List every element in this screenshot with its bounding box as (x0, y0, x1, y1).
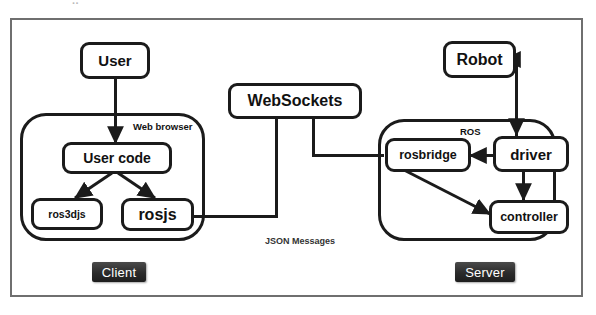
node-robot-label: Robot (456, 51, 502, 69)
diagram-canvas: .. (0, 0, 596, 315)
node-controller-label: controller (500, 210, 558, 224)
node-ros3djs-label: ros3djs (48, 208, 85, 220)
connector-rosjs-up-to-websockets (275, 118, 278, 218)
node-rosbridge[interactable]: rosbridge (385, 138, 471, 172)
connector-websockets-down (312, 118, 315, 157)
node-websockets[interactable]: WebSockets (228, 83, 362, 119)
pill-server: Server (455, 262, 515, 282)
node-websockets-label: WebSockets (248, 92, 343, 110)
group-web-browser-label: Web browser (133, 121, 192, 132)
node-ros3djs[interactable]: ros3djs (31, 198, 103, 230)
connector-websockets-to-rosbridge (312, 154, 384, 157)
node-driver[interactable]: driver (493, 136, 569, 172)
connector-user-to-usercode (114, 78, 117, 142)
pill-client-label: Client (102, 265, 136, 280)
node-user[interactable]: User (80, 42, 150, 79)
node-rosjs-label: rosjs (138, 206, 176, 224)
node-robot[interactable]: Robot (443, 41, 516, 78)
top-cutoff-text: .. (72, 0, 79, 6)
pill-client: Client (92, 262, 146, 282)
node-user-code-label: User code (83, 150, 151, 166)
group-ros-label: ROS (460, 126, 481, 137)
node-controller[interactable]: controller (489, 200, 569, 234)
node-user-label: User (98, 52, 131, 69)
node-rosbridge-label: rosbridge (399, 148, 457, 162)
node-rosjs[interactable]: rosjs (121, 198, 194, 231)
annotation-json-messages: JSON Messages (265, 236, 335, 246)
connector-rosjs-right (192, 215, 278, 218)
pill-server-label: Server (465, 265, 505, 280)
node-user-code[interactable]: User code (62, 142, 172, 174)
node-driver-label: driver (510, 146, 552, 163)
